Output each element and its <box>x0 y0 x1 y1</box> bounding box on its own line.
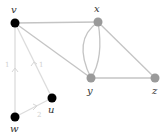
node-label-z: z <box>151 85 158 96</box>
node-label-v: v <box>11 4 17 15</box>
node-u <box>48 94 57 103</box>
node-label-u: u <box>48 104 54 115</box>
edge-v-x <box>15 22 98 23</box>
edge-label-w-u: 2 <box>37 111 41 119</box>
node-label-y: y <box>86 85 93 96</box>
node-y <box>87 74 96 83</box>
edge-x-y-curve-right <box>91 22 100 78</box>
node-w <box>11 113 20 122</box>
graph-diagram: 1 1 2 v x y z u w <box>0 0 168 136</box>
edge-label-u-v: 1 <box>39 61 43 69</box>
edge-w-u <box>15 98 52 117</box>
edge-label-w-v: 1 <box>5 61 9 69</box>
edge-u-v <box>15 23 52 98</box>
node-x <box>94 18 103 27</box>
node-z <box>151 74 160 83</box>
node-label-w: w <box>10 123 19 134</box>
node-label-x: x <box>94 3 100 14</box>
node-v <box>11 19 20 28</box>
edge-v-y <box>15 23 91 78</box>
edge-x-z <box>98 22 155 78</box>
